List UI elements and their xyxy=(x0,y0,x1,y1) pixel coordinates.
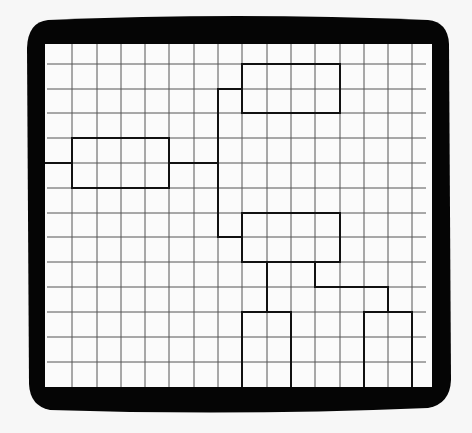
diagram-svg xyxy=(0,0,472,433)
diagram-canvas xyxy=(0,0,472,433)
grid-screen xyxy=(45,44,432,387)
